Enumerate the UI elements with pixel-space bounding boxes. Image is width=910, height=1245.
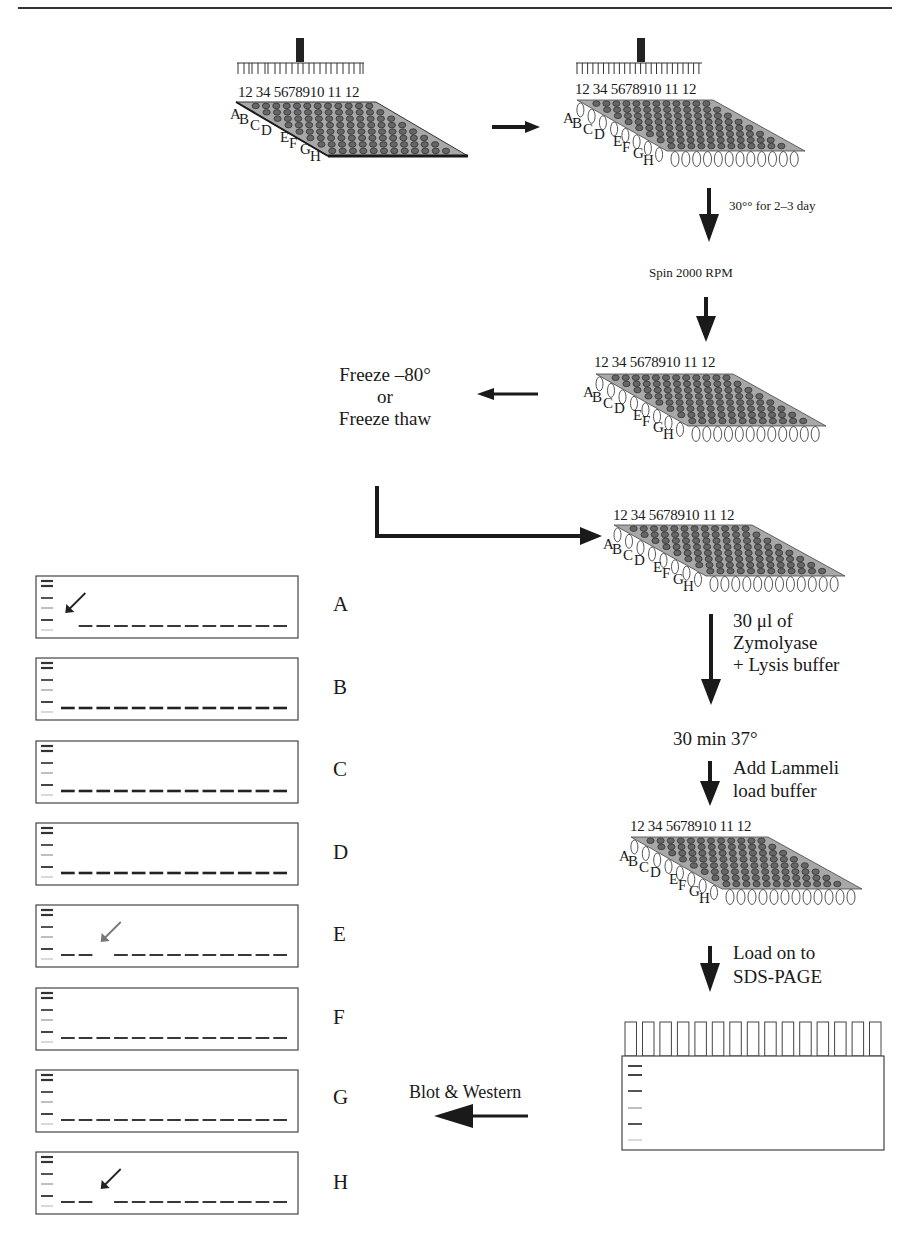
blot-panel-d	[36, 823, 298, 885]
plate-2	[577, 100, 805, 167]
blot-label-d: D	[333, 840, 348, 865]
step-incubate-label: 30°° for 2–3 day	[729, 198, 816, 214]
arrow-down-zymolyase	[701, 614, 721, 705]
blot-label-e: E	[333, 922, 346, 947]
arrow-elbow	[377, 486, 602, 545]
arrow-down-sds	[700, 946, 720, 992]
blot-panel-g	[36, 1070, 298, 1132]
plate-2-column-labels: 12 34 5678910 11 12	[575, 81, 696, 98]
blot-label-b: B	[333, 675, 347, 700]
blot-label-g: G	[333, 1085, 348, 1110]
western-blot-panels	[36, 576, 298, 1214]
plate-1-column-labels: 12 34 5678910 11 12	[238, 84, 359, 101]
arrow-down-2	[696, 297, 716, 342]
blot-panel-c	[36, 741, 298, 803]
arrow-left-blot	[434, 1104, 528, 1128]
blot-panel-a	[36, 576, 298, 638]
plate-5-column-labels: 12 34 5678910 11 12	[630, 818, 751, 835]
pin-replicator-2	[576, 38, 702, 74]
plate-3	[596, 374, 826, 442]
blot-label-a: A	[333, 592, 348, 617]
step-load-label: Load on to SDS-PAGE	[733, 941, 822, 989]
pin-replicator-1	[237, 38, 364, 74]
step-freeze-label: Freeze –80° or Freeze thaw	[300, 364, 470, 430]
arrow-down-1	[699, 188, 719, 242]
blot-label-h: H	[333, 1170, 348, 1195]
blot-panel-e	[36, 905, 298, 967]
blot-panel-f	[36, 988, 298, 1050]
arrow-right-1	[492, 121, 540, 133]
plate-3-column-labels: 12 34 5678910 11 12	[594, 354, 715, 371]
sds-page-gel	[622, 1022, 884, 1150]
blot-label-f: F	[333, 1005, 345, 1030]
plate-5	[631, 837, 862, 905]
plate-4	[614, 525, 845, 592]
arrow-left-freeze	[477, 388, 538, 400]
step-lammeli-label: Add Lammeli load buffer	[733, 756, 839, 802]
step-blot-label: Blot & Western	[409, 1082, 521, 1103]
arrow-down-lammeli	[700, 761, 720, 806]
blot-label-c: C	[333, 757, 347, 782]
blot-panel-h	[36, 1152, 298, 1214]
blot-panel-b	[36, 658, 298, 720]
plate-4-column-labels: 12 34 5678910 11 12	[613, 507, 734, 524]
step-spin-label: Spin 2000 RPM	[649, 265, 733, 281]
step-incubate2-label: 30 min 37°	[673, 728, 758, 750]
step-zymolyase-label: 30 μl of Zymolyase + Lysis buffer	[733, 610, 839, 676]
